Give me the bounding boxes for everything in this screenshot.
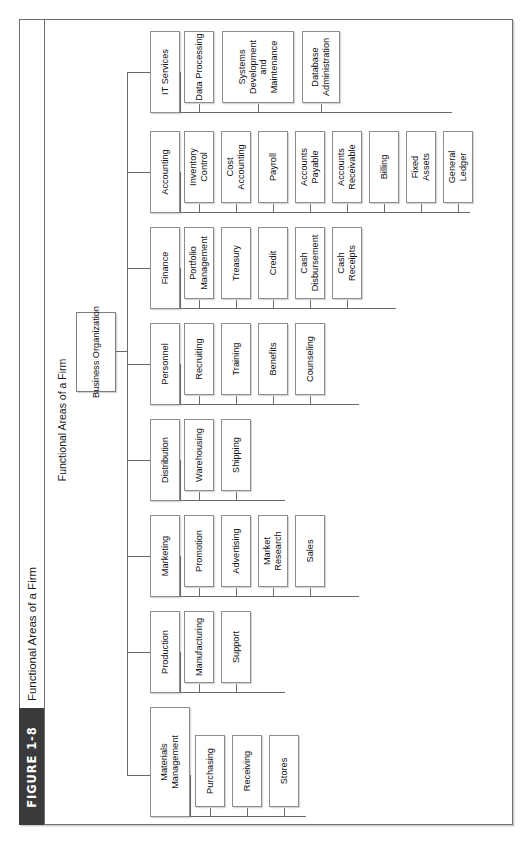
node-stores[interactable]: Stores xyxy=(269,735,299,807)
connector-spine xyxy=(127,72,128,776)
node-credit[interactable]: Credit xyxy=(258,227,288,299)
connector-d5c2 xyxy=(273,587,274,597)
node-label: Manufacturing xyxy=(194,618,205,676)
node-label: Payroll xyxy=(268,153,279,181)
node-portfolio-management[interactable]: Portfolio Management xyxy=(184,227,214,299)
node-cost-accounting[interactable]: Cost Accounting xyxy=(221,131,251,203)
node-inventory-control[interactable]: Inventory Control xyxy=(184,131,214,203)
node-label: Benefits xyxy=(268,342,279,375)
connector-d2c4 xyxy=(347,299,348,309)
node-label: Training xyxy=(231,343,242,376)
node-manufacturing[interactable]: Manufacturing xyxy=(184,611,214,683)
node-purchasing[interactable]: Purchasing xyxy=(195,735,225,807)
node-department-marketing[interactable]: Marketing xyxy=(150,515,180,597)
node-department-it-services[interactable]: IT Services xyxy=(150,31,180,113)
node-shipping[interactable]: Shipping xyxy=(221,419,251,491)
node-label: Distribution xyxy=(160,437,171,483)
node-label: Cost Accounting xyxy=(225,144,246,189)
connector-spine-to-d3 xyxy=(127,364,150,365)
node-department-personnel[interactable]: Personnel xyxy=(150,323,180,405)
node-label: Accounts Payable xyxy=(299,148,320,186)
connector-d2-bus xyxy=(180,308,396,309)
node-promotion[interactable]: Promotion xyxy=(184,515,214,587)
connector-spine-to-d6 xyxy=(127,652,150,653)
node-recruiting[interactable]: Recruiting xyxy=(184,323,214,395)
connector-d0c1 xyxy=(258,103,259,113)
node-systems-development-and-maintenance[interactable]: Systems Development and Maintenance xyxy=(222,31,294,103)
node-label: Shipping xyxy=(231,437,242,473)
node-label: Inventory Control xyxy=(188,148,209,186)
node-payroll[interactable]: Payroll xyxy=(258,131,288,203)
connector-d7c2 xyxy=(284,807,285,817)
node-label: Portfolio Management xyxy=(188,236,209,290)
connector-d4-stub xyxy=(180,460,181,501)
node-cash-disbursement[interactable]: Cash Disbursement xyxy=(295,227,325,299)
connector-spine-to-d4 xyxy=(127,460,150,461)
node-database-administration[interactable]: Database Administration xyxy=(302,31,340,103)
node-department-production[interactable]: Production xyxy=(150,611,180,693)
node-cash-receipts[interactable]: Cash Receipts xyxy=(332,227,362,299)
node-label: Fixed Assets xyxy=(410,153,431,181)
node-benefits[interactable]: Benefits xyxy=(258,323,288,395)
connector-d5c3 xyxy=(310,587,311,597)
node-label: Warehousing xyxy=(194,428,205,482)
node-advertising[interactable]: Advertising xyxy=(221,515,251,587)
node-accounts-receivable[interactable]: Accounts Receivable xyxy=(332,131,362,203)
connector-d3c1 xyxy=(236,395,237,405)
node-label: Accounts Receivable xyxy=(336,144,357,189)
connector-d7-stub xyxy=(190,775,191,817)
node-billing[interactable]: Billing xyxy=(369,131,399,203)
node-department-distribution[interactable]: Distribution xyxy=(150,419,180,501)
node-counseling[interactable]: Counseling xyxy=(295,323,325,395)
node-receiving[interactable]: Receiving xyxy=(232,735,262,807)
connector-d3c0 xyxy=(199,395,200,405)
node-label: Systems Development and Maintenance xyxy=(237,40,279,94)
node-label: Sales xyxy=(305,540,316,563)
node-treasury[interactable]: Treasury xyxy=(221,227,251,299)
node-department-finance[interactable]: Finance xyxy=(150,227,180,309)
node-label: Stores xyxy=(279,758,290,785)
connector-d6-stub xyxy=(180,652,181,693)
connector-d1c6 xyxy=(421,203,422,213)
figure-caption: Functional Areas of a Firm xyxy=(19,560,44,708)
node-warehousing[interactable]: Warehousing xyxy=(184,419,214,491)
node-label: Receiving xyxy=(242,751,253,791)
node-general-ledger[interactable]: General Ledger xyxy=(443,131,473,203)
node-sales[interactable]: Sales xyxy=(295,515,325,587)
connector-d1-bus xyxy=(180,212,470,213)
connector-d1c0 xyxy=(199,203,200,213)
node-label: Market Research xyxy=(262,531,283,570)
node-label: Treasury xyxy=(231,245,242,281)
figure-caption-label: Functional Areas of a Firm xyxy=(26,567,38,701)
connector-d2c2 xyxy=(273,299,274,309)
node-department-accounting[interactable]: Accounting xyxy=(150,131,180,213)
node-label: Credit xyxy=(268,251,279,276)
connector-d1c5 xyxy=(384,203,385,213)
connector-d3c2 xyxy=(273,395,274,405)
node-label: Materials Management xyxy=(159,735,180,789)
node-fixed-assets[interactable]: Fixed Assets xyxy=(406,131,436,203)
node-root[interactable]: Business Organization xyxy=(76,312,116,392)
node-support[interactable]: Support xyxy=(221,611,251,683)
node-data-processing[interactable]: Data Processing xyxy=(184,31,214,103)
connector-d1-stub xyxy=(180,172,181,213)
connector-d6c1 xyxy=(236,683,237,693)
node-label: Purchasing xyxy=(205,748,216,794)
node-label: Cash Disbursement xyxy=(299,235,320,292)
connector-d0-stub xyxy=(180,72,181,113)
connector-d3-bus xyxy=(180,404,359,405)
connector-d2c0 xyxy=(199,299,200,309)
org-chart: Functional Areas of a Firm Business Orga… xyxy=(45,20,512,824)
node-market-research[interactable]: Market Research xyxy=(258,515,288,587)
connector-d4-bus xyxy=(180,500,285,501)
node-training[interactable]: Training xyxy=(221,323,251,395)
node-label: Database Administration xyxy=(310,38,331,96)
node-label: Production xyxy=(160,630,171,674)
connector-d0c2 xyxy=(321,103,322,113)
connector-d5c0 xyxy=(199,587,200,597)
connector-d6c0 xyxy=(199,683,200,693)
node-label: Personnel xyxy=(160,343,171,384)
node-label: Billing xyxy=(379,155,390,180)
node-accounts-payable[interactable]: Accounts Payable xyxy=(295,131,325,203)
node-department-materials-management[interactable]: Materials Management xyxy=(150,707,190,817)
